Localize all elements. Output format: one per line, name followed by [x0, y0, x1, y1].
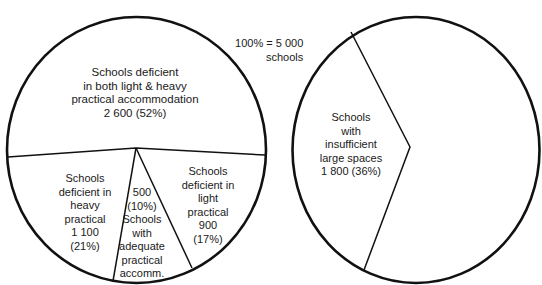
- label-value: 900: [173, 219, 243, 233]
- label-value: 500: [117, 186, 167, 200]
- total-annotation-line2: schools: [226, 51, 303, 65]
- slice-label-adequate: 500 (10%) Schools with adequate practica…: [117, 186, 167, 281]
- label-line: Schools: [50, 172, 120, 186]
- label-line: with: [117, 227, 167, 241]
- label-line: heavy: [50, 199, 120, 213]
- slice-label-both: Schools deficient in both light & heavy …: [60, 66, 210, 120]
- label-value: 1 100: [50, 226, 120, 240]
- total-annotation-line1: 100% = 5 000: [226, 37, 303, 51]
- label-line: Schools: [117, 213, 167, 227]
- label-value: 1 800 (36%): [311, 165, 391, 179]
- label-line: insufficient: [311, 138, 391, 152]
- label-line: Schools: [173, 165, 243, 179]
- slice-label-heavy: Schools deficient in heavy practical 1 1…: [50, 172, 120, 253]
- label-line: practical accommodation: [60, 93, 210, 107]
- slice-label-light: Schools deficient in light practical 900…: [173, 165, 243, 246]
- label-line: in both light & heavy: [60, 80, 210, 94]
- label-percent: (10%): [117, 200, 167, 214]
- label-line: practical: [117, 254, 167, 268]
- label-line: large spaces: [311, 152, 391, 166]
- label-line: practical: [173, 206, 243, 220]
- label-line: with: [311, 125, 391, 139]
- label-line: deficient in: [50, 186, 120, 200]
- slice-label-spaces: Schools with insufficient large spaces 1…: [311, 111, 391, 179]
- total-annotation: 100% = 5 000 schools: [226, 37, 303, 64]
- label-line: Schools: [311, 111, 391, 125]
- label-value: 2 600 (52%): [60, 107, 210, 121]
- label-line: light: [173, 192, 243, 206]
- label-percent: (21%): [50, 240, 120, 254]
- label-line: Schools deficient: [60, 66, 210, 80]
- label-percent: (17%): [173, 233, 243, 247]
- label-line: accomm.: [117, 267, 167, 281]
- label-line: adequate: [117, 240, 167, 254]
- label-line: practical: [50, 213, 120, 227]
- label-line: deficient in: [173, 179, 243, 193]
